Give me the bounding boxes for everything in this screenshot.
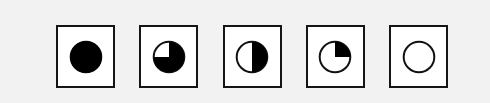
symbol-box-empty — [389, 25, 448, 88]
pie-fill-25-icon — [317, 39, 353, 75]
symbol-box-full — [56, 25, 115, 88]
symbol-box-half — [223, 25, 282, 88]
pie-fill-75-icon — [151, 39, 187, 75]
pie-fill-100-icon — [68, 39, 104, 75]
harvey-ball-scale-figure — [0, 0, 490, 103]
symbol-row — [56, 25, 448, 89]
symbol-box-quarter — [306, 25, 365, 88]
pie-fill-0-icon — [401, 39, 437, 75]
pie-fill-50-icon — [234, 39, 270, 75]
symbol-box-three-quarter — [139, 25, 198, 88]
